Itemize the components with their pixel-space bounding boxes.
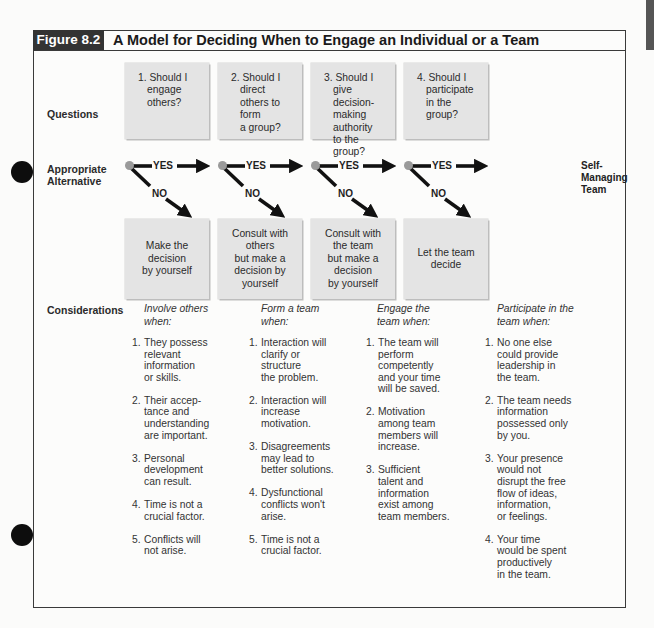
list-item: 4.Time is not a crucial factor. bbox=[132, 499, 244, 522]
list-item: 3.Disagreements may lead to better solut… bbox=[249, 441, 361, 476]
list-item: 4.Your time would be spent productively … bbox=[485, 534, 600, 580]
alternative-box-4: Let the team decide bbox=[404, 219, 488, 299]
considerations-list-4: 1.No one else could provide leadership i… bbox=[485, 337, 600, 592]
alternative-box-3: Consult with the team but make a decisio… bbox=[311, 219, 395, 299]
branch-2 bbox=[224, 166, 297, 214]
considerations-heading-4: Participate in the team when: bbox=[497, 303, 574, 329]
no-label-2: NO bbox=[245, 188, 260, 199]
considerations-heading-3: Engage the team when: bbox=[377, 303, 430, 329]
alternative-box-1: Make the decision by yourself bbox=[125, 219, 209, 299]
branch-4 bbox=[410, 166, 482, 214]
list-item: 1.No one else could provide leadership i… bbox=[485, 337, 600, 383]
considerations-heading-2: Form a team when: bbox=[261, 303, 319, 329]
list-item: 1.Interaction will clarify or structure … bbox=[249, 337, 361, 383]
list-item: 5.Conflicts will not arise. bbox=[132, 534, 244, 557]
list-item: 5.Time is not a crucial factor. bbox=[249, 534, 361, 557]
considerations-heading-1: Involve others when: bbox=[144, 303, 208, 329]
decision-start-dot-2 bbox=[218, 161, 227, 170]
alternative-text: Make the decision by yourself bbox=[142, 240, 192, 277]
decision-start-dot-1 bbox=[125, 161, 134, 170]
list-item: 2.The team needs information possessed o… bbox=[485, 395, 600, 441]
decision-start-dot-4 bbox=[404, 161, 413, 170]
list-item: 3.Sufficient talent and information exis… bbox=[366, 464, 481, 522]
alternative-text: Consult with the team but make a decisio… bbox=[325, 228, 381, 290]
list-item: 4.Dysfunctional conflicts won't arise. bbox=[249, 487, 361, 522]
no-label-1: NO bbox=[152, 188, 167, 199]
considerations-list-1: 1.They possess relevant information or s… bbox=[132, 337, 244, 568]
self-managing-team-outcome: Self- Managing Team bbox=[581, 160, 628, 196]
list-item: 2.Interaction will increase motivation. bbox=[249, 395, 361, 430]
list-item: 1.They possess relevant information or s… bbox=[132, 337, 244, 383]
no-label-3: NO bbox=[338, 188, 353, 199]
considerations-list-2: 1.Interaction will clarify or structure … bbox=[249, 337, 361, 568]
no-label-4: NO bbox=[431, 188, 446, 199]
alternative-text: Let the team decide bbox=[417, 247, 474, 272]
yes-label-4: YES bbox=[432, 160, 452, 171]
considerations-list-3: 1.The team will perform competently and … bbox=[366, 337, 481, 534]
list-item: 2.Their accep- tance and understanding a… bbox=[132, 395, 244, 441]
yes-label-2: YES bbox=[246, 160, 266, 171]
list-item: 3.Your presence would not disrupt the fr… bbox=[485, 453, 600, 523]
alternative-box-2: Consult with others but make a decision … bbox=[218, 219, 302, 299]
decision-start-dot-3 bbox=[311, 161, 320, 170]
list-item: 2.Motivation among team members will inc… bbox=[366, 406, 481, 452]
yes-label-3: YES bbox=[339, 160, 359, 171]
yes-label-1: YES bbox=[153, 160, 173, 171]
list-item: 3.Personal development can result. bbox=[132, 453, 244, 488]
list-item: 1.The team will perform competently and … bbox=[366, 337, 481, 395]
branch-3 bbox=[317, 166, 390, 214]
alternative-text: Consult with others but make a decision … bbox=[232, 228, 288, 290]
branch-1 bbox=[131, 166, 204, 214]
